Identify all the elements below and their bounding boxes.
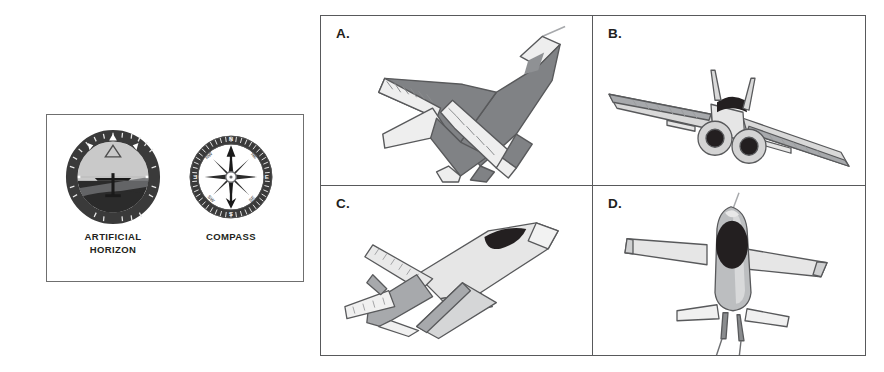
svg-text:N: N — [229, 135, 234, 142]
artificial-horizon-instrument: ARTIFICIAL HORIZON — [57, 125, 169, 256]
svg-text:E: E — [193, 174, 197, 181]
compass-instrument: N E S E — [175, 125, 287, 244]
svg-text:E: E — [265, 173, 269, 180]
artificial-horizon-label-line1: ARTIFICIAL — [57, 231, 169, 244]
aircraft-option-a[interactable]: A. — [321, 16, 593, 186]
fighter-jet-top-front-icon — [321, 16, 592, 185]
aircraft-option-c[interactable]: C. — [321, 186, 593, 356]
compass-gauge-icon: N E S E — [175, 125, 287, 229]
fighter-jet-rear-icon — [593, 16, 865, 185]
compass-label-line1: COMPASS — [175, 231, 287, 244]
screenshot-stage: ARTIFICIAL HORIZON — [0, 0, 884, 372]
aircraft-option-b[interactable]: B. — [593, 16, 865, 186]
aircraft-options-panel: A. — [320, 15, 866, 356]
jet-top-down-icon — [593, 186, 865, 356]
artificial-horizon-gauge-icon — [57, 125, 169, 229]
artificial-horizon-label-line2: HORIZON — [57, 244, 169, 257]
artificial-horizon-label: ARTIFICIAL HORIZON — [57, 231, 169, 256]
aircraft-option-d[interactable]: D. — [593, 186, 865, 356]
instrument-panel: ARTIFICIAL HORIZON — [46, 114, 304, 282]
compass-label: COMPASS — [175, 231, 287, 244]
jet-side-quarter-icon — [321, 186, 592, 356]
svg-text:S: S — [229, 211, 233, 218]
